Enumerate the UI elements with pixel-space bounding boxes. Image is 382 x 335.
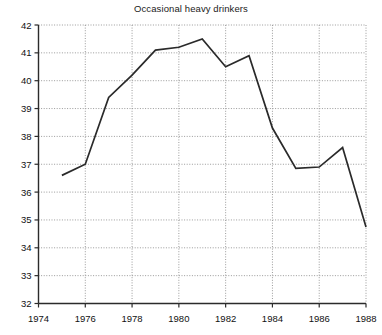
x-tick-label-1974: 1974	[28, 313, 49, 324]
x-tick-label-1976: 1976	[75, 313, 96, 324]
y-tick-label-41: 41	[21, 47, 32, 58]
y-tick-label-40: 40	[21, 75, 32, 86]
y-tick-label-35: 35	[21, 214, 32, 225]
x-tick-label-1980: 1980	[168, 313, 189, 324]
y-tick-label-32: 32	[21, 298, 32, 309]
chart-container: Occasional heavy drinkers 32333435363738…	[0, 0, 382, 335]
x-tick-label-1982: 1982	[215, 313, 236, 324]
y-tick-label-33: 33	[21, 270, 32, 281]
y-tick-label-36: 36	[21, 187, 32, 198]
horizontal-gridlines	[39, 25, 367, 304]
x-tick-label-1986: 1986	[309, 313, 330, 324]
y-tick-label-34: 34	[21, 242, 32, 253]
x-tick-label-1978: 1978	[122, 313, 143, 324]
data-series-line	[62, 39, 366, 227]
y-tick-label-37: 37	[21, 159, 32, 170]
y-tick-label-42: 42	[21, 20, 32, 31]
x-axis-tick-labels: 19741976197819801982198419861988	[28, 313, 377, 324]
line-chart-plot: 3233343536373839404142 19741976197819801…	[0, 0, 382, 335]
x-tick-label-1988: 1988	[355, 313, 376, 324]
y-axis-tick-labels: 3233343536373839404142	[21, 20, 32, 310]
y-tick-label-38: 38	[21, 131, 32, 142]
x-tick-label-1984: 1984	[262, 313, 283, 324]
y-tick-label-39: 39	[21, 103, 32, 114]
